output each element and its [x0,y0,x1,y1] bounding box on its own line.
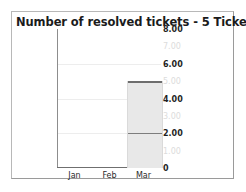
y-axis-tick-label: 8.00 [163,24,207,35]
y-axis-tick-label: 2.00 [163,128,207,139]
y-axis-tick-label: 4.00 [163,94,207,105]
bar-segment-divider [128,133,162,134]
gridline [58,64,161,65]
x-axis-tick-label: Mar [126,170,161,182]
x-axis-tick-label: Jan [57,170,92,182]
chart-frame: Number of resolved tickets - 5 Ticket(s)… [11,11,234,179]
y-axis-tick-label: 5.00 [163,76,207,87]
plot-area: 8.007.006.005.004.003.002.001.000 JanFeb… [57,29,161,168]
y-axis-tick-label: 6.00 [163,59,207,70]
x-axis-tick-label: Feb [92,170,127,182]
y-axis-tick-label: 7.00 [163,41,207,52]
y-axis-tick-label: 3.00 [163,111,207,122]
bar-chart-image: Number of resolved tickets - 5 Ticket(s)… [0,0,246,192]
y-axis-tick-label: 1.00 [163,146,207,157]
y-axis-tick-label: 0 [163,163,207,174]
bar-top-cap [128,81,162,83]
bar [127,81,163,168]
